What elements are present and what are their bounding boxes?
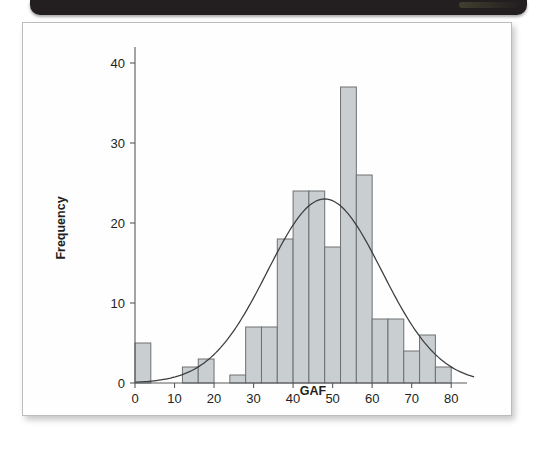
y-axis-title: Frequency (54, 196, 68, 259)
histogram-bar (372, 319, 388, 383)
y-tick-label: 40 (111, 56, 125, 71)
scan-color-tint (459, 2, 519, 8)
histogram-bar (135, 343, 151, 383)
y-tick-label: 10 (111, 296, 125, 311)
x-tick-group: 01020304050607080 (131, 383, 458, 406)
histogram-bar (388, 319, 404, 383)
x-tick-label: 40 (286, 391, 300, 406)
y-tick-label: 0 (118, 376, 125, 391)
histogram-bar (261, 327, 277, 383)
histogram-bar (293, 191, 309, 383)
bars-group (135, 87, 451, 383)
y-tick-label: 20 (111, 216, 125, 231)
histogram-bar (230, 375, 246, 383)
histogram-bar (435, 367, 451, 383)
histogram-bar (277, 239, 293, 383)
histogram-bar (325, 247, 341, 383)
x-tick-label: 80 (444, 391, 458, 406)
x-tick-label: 30 (246, 391, 260, 406)
x-tick-label: 20 (207, 391, 221, 406)
x-tick-label: 50 (325, 391, 339, 406)
histogram-bar (420, 335, 436, 383)
x-tick-label: 70 (404, 391, 418, 406)
histogram-chart: 01020304050607080 010203040 GAF Frequenc… (23, 23, 511, 415)
histogram-bar (198, 359, 214, 383)
x-tick-label: 60 (365, 391, 379, 406)
figure-card: 01020304050607080 010203040 GAF Frequenc… (22, 22, 512, 416)
histogram-bar (182, 367, 198, 383)
x-tick-label: 0 (131, 391, 138, 406)
histogram-bar (309, 191, 325, 383)
x-tick-label: 10 (167, 391, 181, 406)
y-tick-group: 010203040 (111, 56, 135, 391)
x-axis-title: GAF (300, 384, 327, 398)
y-tick-label: 30 (111, 136, 125, 151)
histogram-bar (356, 175, 372, 383)
histogram-bar (341, 87, 357, 383)
histogram-bar (404, 351, 420, 383)
page-top-black-bar (30, 0, 527, 15)
histogram-bar (246, 327, 262, 383)
